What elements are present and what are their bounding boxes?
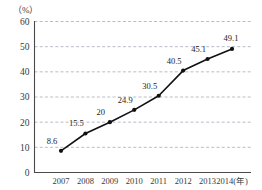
x-axis-tick-labels: 20072008200920102011201220132014(年) <box>53 176 248 186</box>
data-point-marker <box>230 47 234 51</box>
data-point-marker <box>83 131 87 135</box>
y-axis-tick-label: 30 <box>20 92 30 102</box>
y-axis-tick-label: 50 <box>20 42 30 52</box>
data-line-series <box>61 49 232 151</box>
data-point-marker <box>157 94 161 98</box>
chart-canvas: （%） 0102030405060 8.615.52024.930.540.54… <box>0 0 262 190</box>
data-point-marker <box>108 120 112 124</box>
x-axis-tick-label: 2009 <box>101 176 118 186</box>
data-point-label: 30.5 <box>142 81 157 91</box>
data-point-marker <box>59 149 63 153</box>
data-point-label: 24.9 <box>118 95 133 105</box>
data-point-label: 40.5 <box>167 56 182 66</box>
data-point-label: 49.1 <box>224 33 239 43</box>
data-point-label: 45.1 <box>191 44 206 54</box>
x-axis-tick-label: 2012 <box>175 176 192 186</box>
data-point-labels: 8.615.52024.930.540.545.149.1 <box>47 33 239 146</box>
data-point-label: 20 <box>97 107 106 117</box>
x-axis-tick-label: 2008 <box>77 176 94 186</box>
y-axis-tick-labels: 0102030405060 <box>20 17 30 178</box>
data-point-marker <box>205 57 209 61</box>
data-point-label: 8.6 <box>47 136 58 146</box>
x-axis-tick-label: 2014(年) <box>216 176 248 186</box>
y-axis-tick-label: 40 <box>20 67 30 77</box>
y-axis-unit-label: （%） <box>13 5 39 15</box>
x-axis-tick-label: 2010 <box>126 176 143 186</box>
y-axis-tick-label: 10 <box>20 143 30 153</box>
data-point-label: 15.5 <box>69 118 84 128</box>
y-axis-tick-label: 20 <box>20 118 30 128</box>
x-axis-tick-label: 2011 <box>150 176 167 186</box>
x-axis-tick-label: 2007 <box>53 176 70 186</box>
data-point-marker <box>181 68 185 72</box>
x-axis-tick-label: 2013 <box>199 176 216 186</box>
y-axis-tick-label: 60 <box>20 17 30 27</box>
line-chart: （%） 0102030405060 8.615.52024.930.540.54… <box>0 0 262 190</box>
y-axis-tick-label: 0 <box>25 168 30 178</box>
data-point-markers <box>59 47 234 153</box>
data-point-marker <box>132 108 136 112</box>
